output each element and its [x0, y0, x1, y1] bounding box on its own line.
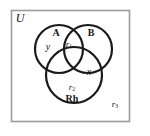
- set-a-label: A: [52, 28, 59, 38]
- region-r2-subscript: 2: [72, 86, 75, 92]
- region-r2-label: r2: [69, 83, 75, 93]
- region-r1-subscript: 1: [69, 43, 72, 49]
- region-r1-label: r1: [66, 40, 72, 50]
- set-b-label: B: [88, 28, 95, 38]
- set-rh-label: Rh: [66, 94, 79, 104]
- region-y-label: y: [46, 42, 50, 52]
- region-x-label: x: [87, 67, 91, 77]
- region-r3-label: r3: [112, 100, 118, 110]
- venn-diagram-figure: U A B y r1 x r2 Rh r3: [0, 0, 150, 136]
- region-r3-subscript: 3: [115, 103, 118, 109]
- universal-set-label: U: [16, 12, 25, 24]
